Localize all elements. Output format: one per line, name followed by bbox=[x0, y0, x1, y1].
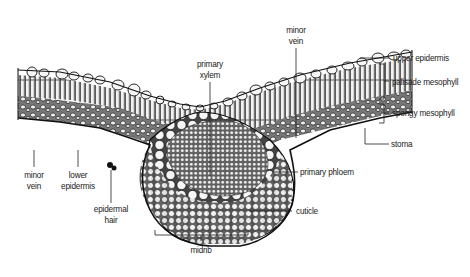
label-minor-vein-top: minor vein bbox=[281, 24, 310, 46]
label-cuticle: cuticle bbox=[296, 205, 318, 216]
leaf-diagram: primary xylem minor vein upper epidermis… bbox=[0, 0, 470, 277]
label-lower-epidermis: lower epidermis bbox=[61, 169, 95, 191]
label-midrib: midrib bbox=[188, 244, 214, 255]
label-palisade-mesophyll: palisade mesophyll bbox=[392, 76, 458, 87]
label-primary-xylem: primary xylem bbox=[194, 58, 227, 80]
label-upper-epidermis: upper epidermis bbox=[393, 52, 449, 63]
label-spongy-mesophyll: spongy mesophyll bbox=[392, 107, 455, 118]
label-stoma: stoma bbox=[391, 138, 412, 149]
label-primary-phloem: primary phloem bbox=[300, 166, 354, 177]
label-epidermal-hair: epidermal hair bbox=[93, 203, 129, 225]
epidermal-hair-cells bbox=[107, 162, 117, 171]
label-minor-vein-bottom: minor vein bbox=[22, 169, 46, 191]
